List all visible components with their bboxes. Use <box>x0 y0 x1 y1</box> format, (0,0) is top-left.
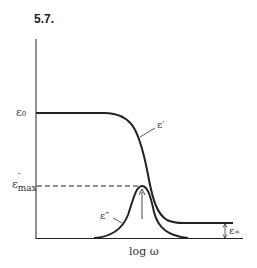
eps-prime-curve <box>36 113 233 223</box>
eps-inf-subscript: ∞ <box>234 228 240 236</box>
eps0-subscript: 0 <box>22 110 26 118</box>
eps0-label: ε0 <box>16 107 26 118</box>
eps-max-label: ε″max <box>12 179 37 190</box>
eps-max-subscript: max <box>18 183 37 193</box>
x-axis-label: log ω <box>129 246 159 257</box>
eps-inf-label: ε∞ <box>229 226 240 236</box>
dielectric-dispersion-diagram <box>0 0 257 268</box>
eps-prime-leader <box>140 128 155 137</box>
eps-prime-label: ε′ <box>157 120 164 130</box>
eps-max-superscript: ″ <box>18 172 21 180</box>
eps-double-prime-leader <box>113 218 122 223</box>
eps-double-prime-label: ε″ <box>100 211 109 221</box>
